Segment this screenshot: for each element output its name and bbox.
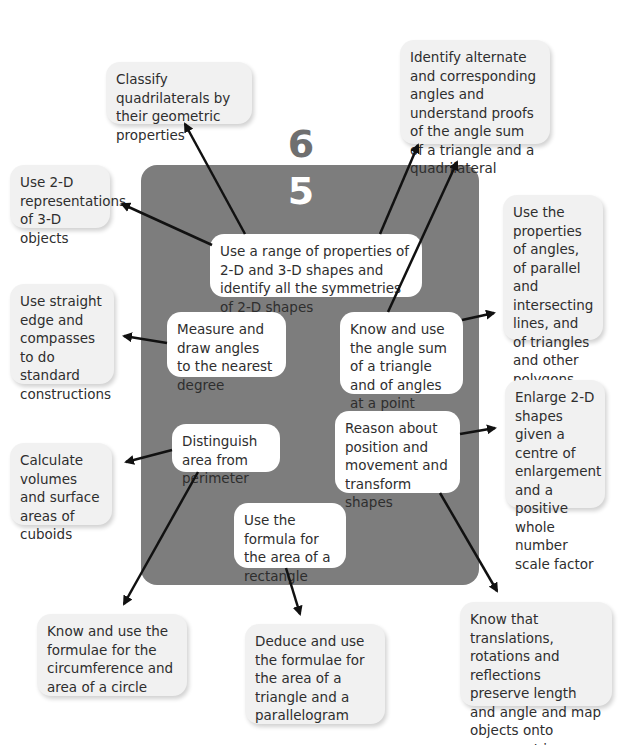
node-measure-angles: Measure and draw angles to the nearest d… <box>167 312 286 377</box>
node-shapes-2d-3d: Use a range of properties of 2-D and 3-D… <box>210 234 422 297</box>
level-5-label: 5 <box>271 172 331 210</box>
node-triangle-parallelogram: Deduce and use the formulae for the area… <box>245 624 385 724</box>
level-6-label: 6 <box>271 125 331 163</box>
node-cuboids: Calculate volumes and surface areas of c… <box>10 443 112 525</box>
node-transformations: Know that translations, rotations and re… <box>460 602 612 706</box>
node-area-perimeter: Distinguish area from perimeter <box>172 424 280 472</box>
node-rectangle-area: Use the formula for the area of a rectan… <box>234 503 346 568</box>
node-enlarge-shapes: Enlarge 2-D shapes given a centre of enl… <box>505 380 605 508</box>
node-representations-3d: Use 2-D representations of 3-D objects <box>10 165 110 228</box>
node-alternate-angles: Identify alternate and corresponding ang… <box>400 40 550 144</box>
node-circle-formulae: Know and use the formulae for the circum… <box>37 614 187 696</box>
node-position-movement: Reason about position and movement and t… <box>335 411 460 493</box>
node-constructions: Use straight edge and compasses to do st… <box>10 284 114 384</box>
node-angle-sum: Know and use the angle sum of a triangle… <box>340 312 463 394</box>
node-classify-quadrilaterals: Classify quadrilaterals by their geometr… <box>106 62 252 124</box>
node-properties-of-angles: Use the properties of angles, of paralle… <box>503 195 603 340</box>
